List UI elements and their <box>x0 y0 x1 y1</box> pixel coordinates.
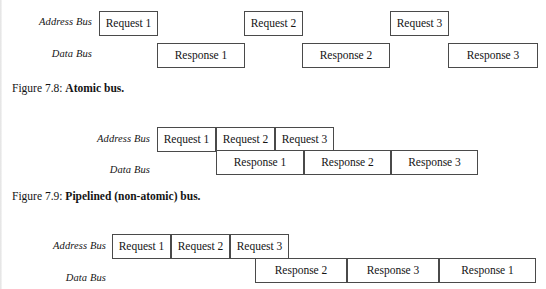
bus-box-request-2: Request 2 <box>244 11 303 36</box>
bus-box-response-1: Response 1 <box>216 150 304 175</box>
bus-label-data-bus: Data Bus <box>0 164 150 175</box>
caption-number: Figure 7.9: <box>12 190 62 202</box>
bus-label-data-bus: Data Bus <box>0 272 106 283</box>
bus-label-data-bus: Data Bus <box>0 48 92 59</box>
bus-box-request-3: Request 3 <box>390 11 449 36</box>
bus-box-request-2: Request 2 <box>171 234 230 259</box>
bus-box-request-2: Request 2 <box>216 127 275 152</box>
caption-title: Pipelined (non-atomic) bus. <box>65 190 200 202</box>
bus-box-response-2: Response 2 <box>302 43 390 68</box>
bus-box-response-1: Response 1 <box>439 258 536 283</box>
bus-box-response-2: Response 2 <box>304 150 391 175</box>
bus-box-response-1: Response 1 <box>157 43 245 68</box>
bus-box-request-1: Request 1 <box>99 11 158 36</box>
bus-box-response-3: Response 3 <box>448 43 538 68</box>
caption-title: Atomic bus. <box>65 82 124 94</box>
bus-box-request-3: Request 3 <box>275 127 334 152</box>
bus-box-request-1: Request 1 <box>112 234 171 259</box>
caption-figure-7-9: Figure 7.9: Pipelined (non-atomic) bus. <box>12 190 201 202</box>
bus-label-address-bus: Address Bus <box>0 240 106 251</box>
bus-label-address-bus: Address Bus <box>0 133 150 144</box>
caption-figure-7-8: Figure 7.8: Atomic bus. <box>12 82 124 94</box>
bus-box-response-3: Response 3 <box>347 258 439 283</box>
bus-box-response-2: Response 2 <box>255 258 347 283</box>
caption-number: Figure 7.8: <box>12 82 62 94</box>
bus-box-request-3: Request 3 <box>230 234 289 259</box>
bus-box-response-3: Response 3 <box>391 150 478 175</box>
bus-label-address-bus: Address Bus <box>0 16 92 27</box>
bus-box-request-1: Request 1 <box>157 127 216 152</box>
